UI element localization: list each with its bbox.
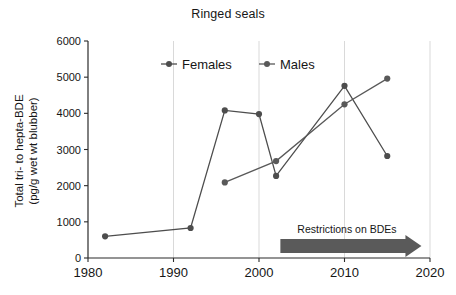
x-axis-tick-labels: 19801990200020102020 xyxy=(74,265,445,280)
restrictions-annotation-label: Restrictions on BDEs xyxy=(297,223,396,235)
y-tick-label: 4000 xyxy=(57,107,81,119)
y-tick-label: 3000 xyxy=(57,144,81,156)
legend-label-males: Males xyxy=(280,57,315,72)
x-tick-label: 1990 xyxy=(159,265,188,280)
data-point-marker xyxy=(273,173,279,179)
data-point-marker xyxy=(102,233,108,239)
chart-figure: Ringed seals Total tri- to hepta-BDE (pg… xyxy=(0,0,456,295)
legend-entry-females: Females xyxy=(161,57,232,72)
chart-legend: Females Males xyxy=(161,57,315,72)
x-tick-label: 2020 xyxy=(416,265,445,280)
x-tick-label: 1980 xyxy=(74,265,103,280)
data-point-marker xyxy=(188,225,194,231)
data-point-marker xyxy=(222,179,228,185)
x-tick-label: 2000 xyxy=(245,265,274,280)
legend-marker-males xyxy=(264,61,270,67)
data-point-marker xyxy=(256,111,262,117)
series-line xyxy=(225,79,387,183)
data-series-females xyxy=(102,83,390,240)
x-tick-label: 2010 xyxy=(330,265,359,280)
data-point-marker xyxy=(341,101,347,107)
data-series-layer xyxy=(102,76,390,240)
data-point-marker xyxy=(384,76,390,82)
data-point-marker xyxy=(222,107,228,113)
y-tick-label: 1000 xyxy=(57,216,81,228)
y-tick-label: 6000 xyxy=(57,35,81,47)
y-tick-label: 0 xyxy=(75,252,81,264)
legend-entry-males: Males xyxy=(259,57,315,72)
y-tick-label: 5000 xyxy=(57,71,81,83)
legend-label-females: Females xyxy=(182,57,232,72)
y-tick-label: 2000 xyxy=(57,180,81,192)
data-series-males xyxy=(222,76,391,186)
legend-marker-females xyxy=(166,61,172,67)
plot-area: 0100020003000400050006000 19801990200020… xyxy=(0,0,456,295)
restrictions-arrow-icon xyxy=(280,235,421,257)
y-axis-tick-labels: 0100020003000400050006000 xyxy=(57,35,81,264)
restrictions-annotation: Restrictions on BDEs xyxy=(280,223,421,257)
data-point-marker xyxy=(341,83,347,89)
data-point-marker xyxy=(273,158,279,164)
data-point-marker xyxy=(384,153,390,159)
